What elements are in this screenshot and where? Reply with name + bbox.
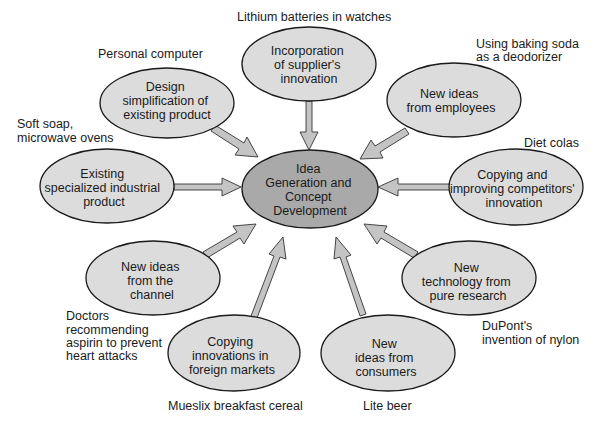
arrow-competitors-to-center xyxy=(378,178,450,196)
node-label-line: innovations in xyxy=(192,349,268,363)
node-label-line: product xyxy=(83,195,125,209)
node-label-line: Copying xyxy=(207,335,253,349)
center-label-line: Development xyxy=(273,204,347,218)
arrow-consumers-to-center xyxy=(334,237,366,316)
node-label-line: Incorporation xyxy=(271,44,344,58)
node-label-line: consumers xyxy=(355,365,416,379)
example-label-line: Using baking soda xyxy=(476,37,579,51)
node-label-line: innovation xyxy=(486,196,543,210)
node-label-line: New ideas xyxy=(420,87,478,101)
example-label: Using baking soda as a deodorizer xyxy=(476,37,582,64)
example-label: DuPont's invention of nylon xyxy=(482,319,579,347)
center-label-line: Idea xyxy=(296,162,320,176)
example-label-line: Mueslix breakfast cereal xyxy=(168,399,303,413)
example-label-line: Diet colas xyxy=(524,136,579,150)
arrow-research-to-center xyxy=(364,224,418,258)
node-label-line: improving competitors' xyxy=(450,182,575,196)
example-label-line: Soft soap, xyxy=(17,117,73,131)
node-employees: New ideas from employees Using baking so… xyxy=(387,37,582,137)
node-label-line: Design xyxy=(146,80,185,94)
arrow-channel-to-center xyxy=(203,224,256,258)
center-node: Idea Generation and Concept Development xyxy=(242,150,378,228)
example-label: Personal computer xyxy=(98,47,203,61)
node-label-line: Copying and xyxy=(477,168,547,182)
arrow-industrial-to-center xyxy=(174,178,241,196)
node-label-line: New xyxy=(454,261,480,275)
node-label-line: foreign markets xyxy=(189,363,275,377)
node-foreign-markets: Copying innovations in foreign markets M… xyxy=(168,315,303,413)
node-label-line: channel xyxy=(130,288,174,302)
node-label: New ideas from the channel xyxy=(121,260,183,302)
example-label-line: invention of nylon xyxy=(482,333,579,347)
example-label: Mueslix breakfast cereal xyxy=(168,399,303,413)
node-label-line: technology from xyxy=(422,275,511,289)
arrow-employees-to-center xyxy=(360,128,409,159)
node-design-simplification: Design simplification of existing produc… xyxy=(98,47,234,138)
example-label-line: heart attacks xyxy=(66,349,138,363)
node-supplier-innovation: Incorporation of supplier's innovation L… xyxy=(237,10,391,101)
center-label-line: Generation and xyxy=(265,176,351,190)
example-label-line: DuPont's xyxy=(482,319,532,333)
example-label: Doctors recommending aspirin to prevent … xyxy=(66,309,165,363)
node-label-line: innovation xyxy=(281,72,338,86)
example-label: Diet colas xyxy=(524,136,579,150)
node-label-line: from the xyxy=(127,274,173,288)
node-label-line: Existing xyxy=(80,167,124,181)
example-label: Soft soap, microwave ovens xyxy=(17,117,114,145)
node-label-line: of supplier's xyxy=(274,58,340,72)
example-label-line: Lite beer xyxy=(363,399,412,413)
node-label-line: specialized industrial xyxy=(45,181,160,195)
example-label-line: Lithium batteries in watches xyxy=(237,10,391,24)
node-label-line: ideas from xyxy=(355,351,413,365)
node-label-line: simplification of xyxy=(123,94,209,108)
node-label-line: pure research xyxy=(429,289,506,303)
example-label: Lite beer xyxy=(363,399,412,413)
node-label-line: existing product xyxy=(123,108,211,122)
node-label-line: New ideas xyxy=(121,260,179,274)
idea-generation-diagram: Idea Generation and Concept Development … xyxy=(0,0,597,426)
arrow-design-to-center xyxy=(211,125,258,157)
example-label-line: Personal computer xyxy=(98,47,203,61)
node-competitors: Copying and improving competitors' innov… xyxy=(449,136,583,225)
example-label-line: as a deodorizer xyxy=(476,50,562,64)
example-label-line: microwave ovens xyxy=(17,131,114,145)
arrow-supplier-to-center xyxy=(300,101,318,150)
example-label-line: recommending xyxy=(66,323,149,337)
node-label: Incorporation of supplier's innovation xyxy=(271,44,347,86)
example-label: Lithium batteries in watches xyxy=(237,10,391,24)
arrow-foreign-to-center xyxy=(251,237,286,318)
node-label-line: from employees xyxy=(407,101,496,115)
node-label-line: New xyxy=(372,337,398,351)
center-label-line: Concept xyxy=(285,190,332,204)
example-label-line: Doctors xyxy=(66,309,109,323)
example-label-line: aspirin to prevent xyxy=(66,336,162,350)
node-consumers: New ideas from consumers Lite beer xyxy=(321,315,455,413)
